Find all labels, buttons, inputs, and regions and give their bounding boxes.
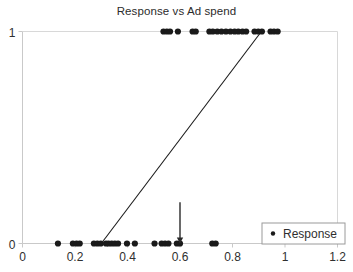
y-tick-label: 0 [9, 238, 16, 252]
x-tick-label: 0.8 [224, 250, 241, 264]
legend: Response [262, 223, 345, 244]
data-point [115, 240, 121, 246]
data-point [193, 28, 199, 34]
data-point [151, 240, 157, 246]
x-tick-label: 0.6 [172, 250, 189, 264]
data-point [213, 240, 219, 246]
data-point [275, 28, 281, 34]
data-point [132, 240, 138, 246]
chart-page: Response vs Ad spend 00.20.40.60.811.201… [0, 0, 353, 272]
data-point [167, 28, 173, 34]
x-tick-label: 0.4 [119, 250, 136, 264]
legend-marker-icon [271, 231, 275, 235]
data-point-group [55, 28, 281, 246]
fit-line [101, 32, 261, 244]
data-point [175, 28, 181, 34]
data-point [165, 240, 171, 246]
x-tick-label: 0 [19, 250, 26, 264]
x-tick-label: 0.2 [67, 250, 84, 264]
scatter-plot: 00.20.40.60.811.201Response [0, 0, 353, 272]
data-point [77, 240, 83, 246]
data-point [55, 240, 61, 246]
x-tick-label: 1 [282, 250, 289, 264]
x-tick-label: 1.2 [329, 250, 346, 264]
y-tick-label: 1 [9, 26, 16, 40]
legend-label: Response [283, 227, 337, 241]
data-point [124, 240, 130, 246]
annotation-arrow [177, 202, 183, 243]
data-point [243, 28, 249, 34]
